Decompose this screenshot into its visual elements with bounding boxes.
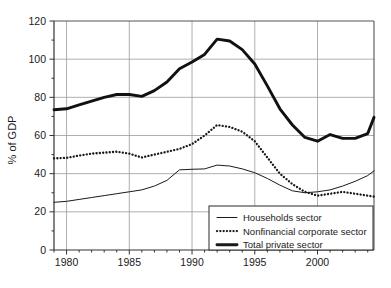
legend-label: Households sector bbox=[243, 212, 322, 223]
x-tick-label: 1995 bbox=[243, 256, 267, 268]
y-tick-label: 80 bbox=[34, 91, 46, 103]
y-axis-ticks bbox=[50, 21, 55, 250]
x-tick-label: 1980 bbox=[55, 256, 79, 268]
line-chart: 020406080100120 19801985199019952000 % o… bbox=[0, 0, 391, 288]
y-axis-tick-labels: 020406080100120 bbox=[28, 15, 46, 256]
chart-figure: 020406080100120 19801985199019952000 % o… bbox=[0, 0, 391, 288]
y-tick-label: 120 bbox=[28, 15, 46, 27]
y-tick-label: 100 bbox=[28, 53, 46, 65]
y-axis-title: % of GDP bbox=[6, 116, 18, 165]
y-tick-label: 0 bbox=[40, 244, 46, 256]
y-tick-label: 40 bbox=[34, 167, 46, 179]
x-axis-tick-labels: 19801985199019952000 bbox=[55, 256, 329, 268]
legend-label: Total private sector bbox=[243, 239, 323, 250]
x-tick-label: 1990 bbox=[180, 256, 204, 268]
x-tick-label: 2000 bbox=[306, 256, 330, 268]
y-tick-label: 60 bbox=[34, 129, 46, 141]
x-axis-ticks bbox=[54, 250, 368, 255]
legend-label: Nonfinancial corporate sector bbox=[243, 226, 367, 237]
y-tick-label: 20 bbox=[34, 205, 46, 217]
x-tick-label: 1985 bbox=[118, 256, 142, 268]
chart-legend: Households sectorNonfinancial corporate … bbox=[209, 206, 373, 250]
